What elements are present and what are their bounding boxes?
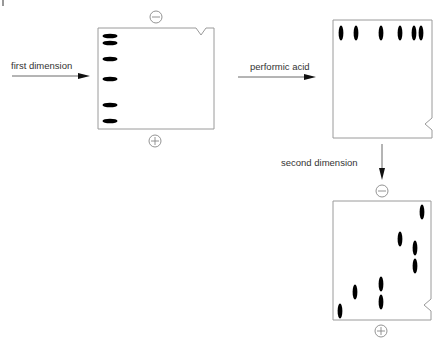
- performic-acid-arrow-icon: [238, 74, 316, 80]
- first-dimension-gel: [98, 11, 214, 147]
- protein-band: [354, 26, 359, 41]
- performic-acid-label: performic acid: [250, 62, 310, 72]
- second-dimension-gel: [333, 185, 431, 337]
- protein-band: [398, 232, 403, 247]
- protein-band: [379, 277, 384, 292]
- second-dimension-label: second dimension: [281, 158, 358, 168]
- protein-band: [379, 26, 384, 41]
- plus-electrode-icon: [149, 135, 161, 147]
- protein-band: [103, 103, 118, 108]
- diagonal-electrophoresis-diagram: [0, 0, 441, 343]
- protein-band: [413, 241, 418, 256]
- first-dimension-label: first dimension: [11, 61, 72, 71]
- protein-band: [103, 77, 118, 82]
- protein-band: [420, 205, 425, 220]
- protein-band: [413, 259, 418, 274]
- protein-band: [398, 26, 403, 41]
- spot-group: [338, 205, 425, 319]
- protein-band: [338, 304, 343, 319]
- second-dimension-arrow-icon: [379, 144, 385, 180]
- minus-electrode-icon: [376, 185, 388, 197]
- protein-band: [353, 285, 358, 300]
- oxidized-gel: [333, 20, 432, 138]
- band-group: [103, 34, 118, 124]
- minus-electrode-icon: [150, 11, 162, 23]
- protein-band: [103, 34, 118, 39]
- protein-band: [103, 41, 118, 46]
- protein-band: [339, 26, 344, 41]
- protein-band: [379, 295, 384, 310]
- protein-band: [103, 57, 118, 62]
- plus-electrode-icon: [375, 325, 387, 337]
- protein-band: [412, 26, 417, 41]
- protein-band: [419, 26, 424, 41]
- first-dimension-arrow-icon: [12, 73, 90, 79]
- band-group: [339, 26, 424, 41]
- protein-band: [103, 119, 118, 124]
